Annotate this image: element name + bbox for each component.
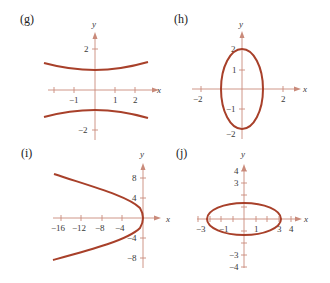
x-tick-label: 2	[133, 95, 138, 105]
y-axis-label: y	[238, 19, 243, 29]
hyperbola-lower-branch	[44, 110, 148, 118]
hyperbola-upper-branch	[44, 62, 148, 70]
y-tick-label: −2	[78, 125, 88, 135]
x-axis-arrow-icon	[295, 217, 302, 222]
y-tick-label: −1	[226, 104, 236, 114]
panel-g: (g) −1 1 2 2 −2 x y	[20, 12, 161, 140]
x-tick-label: −16	[51, 223, 66, 233]
parabola-curve	[53, 174, 143, 260]
panel-label: (j)	[176, 146, 187, 160]
y-tick-label: 3	[234, 178, 239, 188]
panel-label: (i)	[21, 146, 32, 160]
x-tick-label: −12	[72, 223, 86, 233]
y-tick-label: 2	[84, 44, 89, 54]
y-tick-label: −8	[127, 253, 137, 263]
x-tick-label: −4	[115, 223, 125, 233]
y-tick-label: −4	[229, 262, 239, 272]
y-axis-arrow-icon	[141, 163, 146, 170]
y-axis-arrow-icon	[240, 31, 245, 38]
panel-i: (i) −16 −12 −8 −4 8 4 −4 −8 y	[21, 146, 161, 268]
y-axis-label: y	[91, 19, 96, 29]
x-axis-label-left: x	[165, 214, 170, 224]
panel-label: (h)	[174, 12, 188, 26]
x-tick-label: −2	[193, 94, 203, 104]
y-tick-label: 4	[234, 166, 239, 176]
x-tick-label: 2	[281, 94, 286, 104]
x-axis-label: x	[303, 214, 308, 224]
panel-h: (h) −2 2 2 1 −1 −2 x y	[174, 12, 307, 139]
x-tick-label: 4	[289, 224, 294, 234]
x-axis-arrow-icon	[294, 87, 301, 92]
y-tick-label: −2	[226, 129, 236, 139]
x-tick-label: −3	[196, 224, 206, 234]
x-axis-label: x	[156, 85, 161, 95]
y-tick-label: 8	[132, 173, 137, 183]
x-tick-label: −8	[95, 223, 105, 233]
figure-canvas: (g) −1 1 2 2 −2 x y (h) −2 2	[0, 0, 330, 283]
panel-label: (g)	[20, 12, 34, 26]
panel-j: (j) x −3 −1 1 3 4 4 3 −3 −4 x y	[165, 146, 308, 272]
y-axis-arrow-icon	[93, 32, 98, 39]
x-tick-label: 1	[254, 224, 259, 234]
y-tick-label: 1	[232, 65, 237, 75]
x-tick-label: −1	[69, 95, 79, 105]
x-tick-label: 1	[113, 95, 118, 105]
x-axis-label: x	[302, 84, 307, 94]
y-tick-label: −3	[229, 250, 239, 260]
y-axis-arrow-icon	[242, 164, 247, 171]
y-axis-label: y	[240, 149, 245, 159]
x-axis-arrow-icon	[154, 216, 161, 221]
y-axis-label: y	[139, 149, 144, 159]
